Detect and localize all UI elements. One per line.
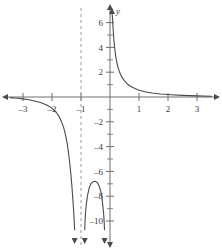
x-tick-label-0: –3 [18,104,29,114]
y-tick-label-3: –2 [93,117,103,127]
y-tick-label-0: 6 [99,18,104,28]
x-tick-label-3: 1 [137,104,142,114]
x-tick-label-5: 3 [195,104,200,114]
function-graph-figure: –3–2–1123642–2–4–6–8–10y [0,0,222,249]
curve-left-branch [10,98,75,230]
y-tick-label-2: 2 [99,67,104,77]
x-tick-label-4: 2 [166,104,171,114]
x-axis-arrow-left [2,94,8,100]
curve-right-branch [112,12,211,96]
y-axis-label: y [115,6,120,16]
middle-branch-arrow-right [101,238,107,244]
y-tick-label-1: 4 [99,43,104,53]
x-axis-arrow-right [214,94,220,100]
left-branch-arrow [72,238,78,244]
y-axis-arrow-down [107,242,113,248]
y-tick-label-4: –4 [93,142,104,152]
y-tick-label-5: –6 [93,167,104,177]
middle-branch-arrow-left [82,238,88,244]
graph-canvas: –3–2–1123642–2–4–6–8–10y [0,0,222,249]
y-tick-label-7: –10 [89,216,104,226]
